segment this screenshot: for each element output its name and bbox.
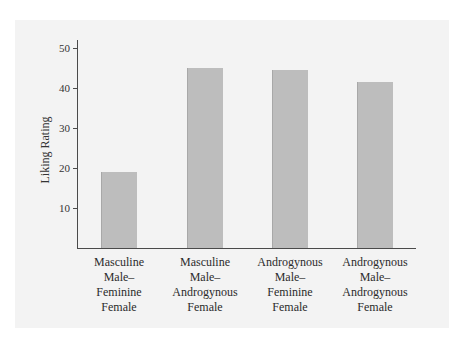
y-tick-label: 10	[40, 202, 70, 214]
category-label-line: Female	[333, 300, 417, 315]
bar	[357, 82, 393, 248]
bar	[101, 172, 137, 248]
y-tick	[73, 88, 78, 89]
bar	[187, 68, 223, 248]
category-label-line: Androgynous	[333, 255, 417, 270]
y-tick	[73, 208, 78, 209]
y-tick-label: 40	[40, 82, 70, 94]
category-label-line: Male–	[248, 270, 332, 285]
category-label-line: Female	[248, 300, 332, 315]
category-label-line: Masculine	[77, 255, 161, 270]
y-tick-label: 50	[40, 42, 70, 54]
category-label-line: Androgynous	[163, 285, 247, 300]
category-label-line: Feminine	[77, 285, 161, 300]
category-label: MasculineMale–FeminineFemale	[77, 255, 161, 315]
y-tick	[73, 48, 78, 49]
y-tick-label: 30	[40, 122, 70, 134]
category-label-line: Female	[77, 300, 161, 315]
category-label: AndrogynousMale–AndrogynousFemale	[333, 255, 417, 315]
y-tick	[73, 128, 78, 129]
category-label-line: Male–	[333, 270, 417, 285]
category-label: AndrogynousMale–FeminineFemale	[248, 255, 332, 315]
category-label: MasculineMale–AndrogynousFemale	[163, 255, 247, 315]
bar	[272, 70, 308, 248]
category-label-line: Masculine	[163, 255, 247, 270]
category-label-line: Feminine	[248, 285, 332, 300]
y-axis-line	[77, 40, 78, 248]
category-label-line: Androgynous	[333, 285, 417, 300]
y-tick	[73, 168, 78, 169]
category-label-line: Male–	[163, 270, 247, 285]
category-label-line: Female	[163, 300, 247, 315]
x-axis-line	[77, 248, 416, 249]
category-label-line: Androgynous	[248, 255, 332, 270]
y-tick-label: 20	[40, 162, 70, 174]
category-label-line: Male–	[77, 270, 161, 285]
